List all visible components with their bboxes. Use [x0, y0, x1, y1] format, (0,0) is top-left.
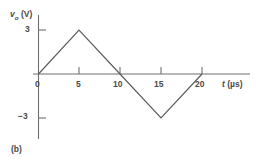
y-tick-label-3: 3: [25, 25, 30, 34]
x-tick-label-20: 20: [195, 80, 204, 89]
y-axis-subscript: o: [15, 14, 19, 21]
y-tick-label-minus-3: −3: [18, 112, 28, 121]
y-axis-unit: (V): [21, 9, 32, 19]
x-tick-label-0: 0: [35, 80, 40, 89]
waveform-figure: vo (V) t (µs) 0 5 10 15 20 3 −3 (b): [0, 0, 266, 165]
x-axis-title: t (µs): [222, 80, 243, 89]
x-tick-label-15: 15: [154, 80, 163, 89]
x-axis-variable: t: [222, 79, 225, 89]
y-axis-title: vo (V): [10, 10, 32, 21]
x-tick-label-5: 5: [76, 80, 81, 89]
x-axis-unit: (µs): [227, 79, 242, 89]
x-tick-label-10: 10: [113, 80, 122, 89]
figure-caption: (b): [11, 145, 22, 154]
